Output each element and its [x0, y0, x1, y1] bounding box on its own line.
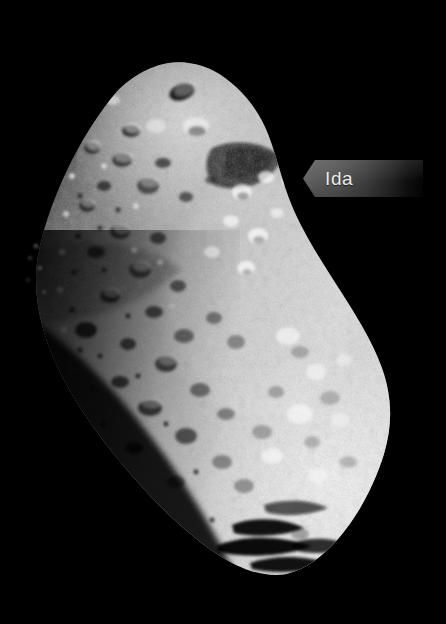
callout-label-text: Ida — [325, 169, 353, 188]
asteroid-image-viewer: Ida — [0, 0, 446, 624]
ida-callout-label: Ida — [303, 160, 423, 197]
asteroid-ida-photo — [0, 0, 446, 624]
callout-plate — [303, 160, 423, 197]
